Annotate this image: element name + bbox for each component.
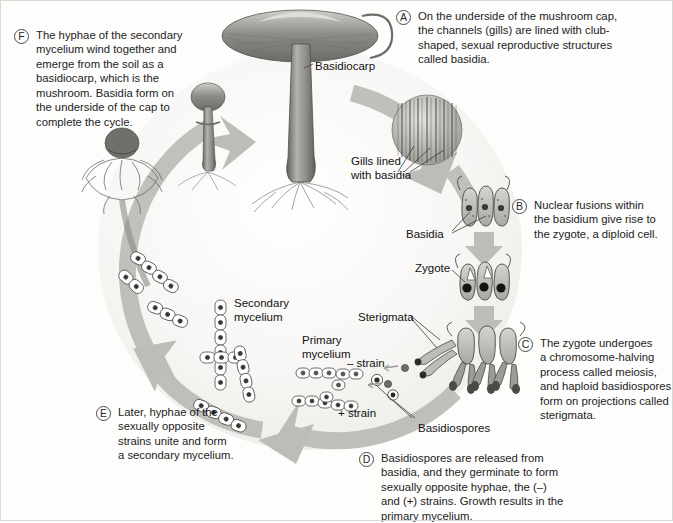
arrow-zygote-to-meiosis [465, 306, 503, 340]
sterigmata-basidiospores [411, 316, 525, 394]
callout-B: B Nuclear fusions within the basidium gi… [512, 198, 673, 241]
label-plus-strain: + strain [338, 407, 376, 421]
label-sterigmata: Sterigmata [358, 311, 414, 325]
callout-D: D Basidiospores are released from basidi… [359, 451, 617, 523]
label-basidiospores: Basidiospores [418, 422, 490, 436]
callout-badge-A: A [396, 10, 411, 25]
callout-text-F: The hyphae of the secondary mycelium win… [36, 28, 182, 129]
label-gills-lined-with-basidia: Gills lined with basidia [351, 155, 411, 183]
callout-badge-C: C [518, 337, 533, 352]
callout-badge-B: B [512, 199, 527, 214]
callout-text-A: On the underside of the mushroom cap, th… [418, 9, 617, 67]
arrow-basidia-to-zygote [465, 232, 503, 266]
label-basidiocarp: Basidiocarp [315, 60, 375, 74]
callout-text-D: Basidiospores are released from basidia,… [381, 451, 563, 523]
callout-badge-E: E [96, 406, 111, 421]
callout-F: F The hyphae of the secondary mycelium w… [14, 28, 199, 129]
label-minus-strain: – strain [347, 357, 385, 371]
callout-A: A On the underside of the mushroom cap, … [396, 9, 668, 67]
callout-badge-D: D [359, 452, 374, 467]
label-secondary-mycelium: Secondary mycelium [234, 297, 289, 325]
callout-badge-F: F [14, 29, 29, 44]
basidia-cluster [452, 176, 510, 233]
primary-mycelium-minus [296, 368, 363, 390]
label-primary-mycelium: Primary mycelium [302, 334, 351, 362]
zygote-cluster [452, 254, 511, 300]
hyphal-knot [82, 128, 162, 286]
callout-C: C The zygote undergoes a chromosome-halv… [518, 336, 673, 423]
callout-text-B: Nuclear fusions within the basidium give… [534, 198, 658, 241]
callout-E: E Later, hyphae of the sexually opposite… [96, 405, 264, 463]
basidiocarp-leader [304, 64, 313, 68]
callout-text-E: Later, hyphae of the sexually opposite s… [118, 405, 234, 463]
label-basidia: Basidia [406, 228, 444, 242]
label-zygote: Zygote [415, 262, 450, 276]
callout-text-C: The zygote undergoes a chromosome-halvin… [540, 336, 671, 423]
